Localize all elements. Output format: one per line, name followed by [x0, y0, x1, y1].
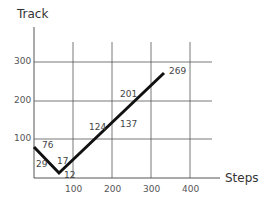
x-axis-title: Steps [225, 171, 259, 185]
x-tick-300: 300 [143, 184, 160, 194]
data-label-76: 76 [42, 140, 53, 150]
y-tick-100: 100 [14, 133, 31, 143]
y-tick-200: 200 [14, 95, 31, 105]
line-chart: Track Steps 300 200 100 100 200 300 400 … [0, 0, 266, 204]
data-label-269: 269 [169, 66, 186, 76]
x-tick-200: 200 [104, 184, 121, 194]
x-tick-400: 400 [182, 184, 199, 194]
data-label-137: 137 [120, 119, 137, 129]
x-tick-100: 100 [65, 184, 82, 194]
data-label-17: 17 [57, 156, 68, 166]
data-label-124: 124 [89, 122, 106, 132]
y-tick-300: 300 [14, 56, 31, 66]
y-axis-title: Track [17, 7, 48, 21]
data-label-12: 12 [64, 170, 75, 180]
data-label-29: 29 [36, 159, 47, 169]
data-label-201: 201 [120, 89, 137, 99]
